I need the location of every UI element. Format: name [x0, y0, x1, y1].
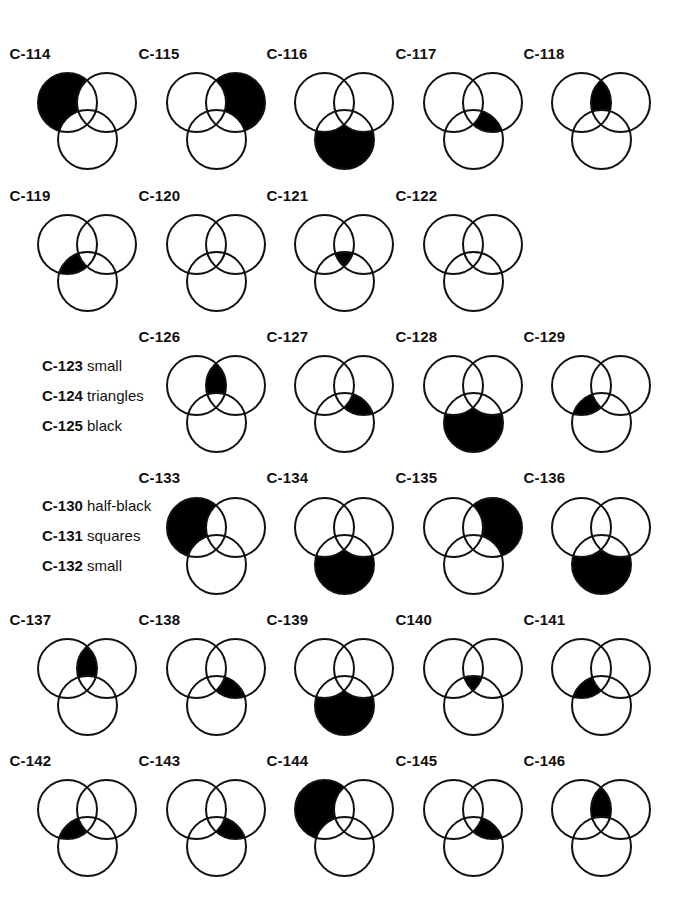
venn-diagram — [34, 211, 140, 315]
diagram-label: C-141 — [524, 611, 566, 628]
venn-diagram — [291, 494, 397, 598]
venn-diagram — [163, 211, 269, 315]
venn-diagram — [291, 776, 397, 880]
diagram-label: C-136 — [524, 469, 566, 486]
diagram-label: C-119 — [10, 187, 51, 204]
venn-item-c-144: C-144 — [267, 752, 396, 892]
venn-item-c-121: C-121 — [267, 187, 396, 327]
circle-a — [167, 639, 226, 698]
side-note: C-124 triangles — [42, 387, 144, 404]
venn-diagram — [163, 494, 269, 598]
diagram-label: C-117 — [396, 45, 437, 62]
side-note: C-125 black — [42, 417, 122, 434]
venn-item-c-138: C-138 — [139, 611, 268, 751]
circle-a — [424, 73, 483, 132]
venn-diagram — [34, 69, 140, 173]
venn-diagram — [34, 776, 140, 880]
diagram-label: C-145 — [396, 752, 438, 769]
venn-diagram — [420, 352, 526, 456]
venn-diagram — [420, 776, 526, 880]
venn-item-c-135: C-135 — [396, 469, 525, 609]
circle-a — [167, 780, 226, 839]
venn-item-c-127: C-127 — [267, 328, 396, 468]
circle-b — [334, 215, 393, 274]
venn-item-c-128: C-128 — [396, 328, 525, 468]
venn-diagram — [163, 776, 269, 880]
diagram-label: C-135 — [396, 469, 438, 486]
diagram-label: C-122 — [396, 187, 438, 204]
side-note: C-131 squares — [42, 527, 140, 544]
circle-a — [424, 639, 483, 698]
side-note: C-132 small — [42, 557, 122, 574]
circle-b — [591, 639, 650, 698]
diagram-label: C-134 — [267, 469, 309, 486]
venn-item-c-133: C-133 — [139, 469, 268, 609]
venn-diagram — [291, 352, 397, 456]
diagram-label: C-138 — [139, 611, 181, 628]
venn-item-c-119: C-119 — [10, 187, 139, 327]
venn-diagram — [548, 635, 654, 739]
diagram-label: C-121 — [267, 187, 309, 204]
diagram-label: C-127 — [267, 328, 309, 345]
side-note: C-123 small — [42, 357, 122, 374]
circle-b — [77, 780, 136, 839]
venn-item-c-120: C-120 — [139, 187, 268, 327]
venn-item-c-146: C-146 — [524, 752, 653, 892]
venn-diagram — [163, 69, 269, 173]
venn-diagram — [420, 69, 526, 173]
diagram-label: C-146 — [524, 752, 566, 769]
venn-diagram — [291, 69, 397, 173]
side-note-code: C-132 — [42, 557, 83, 574]
circle-b — [77, 215, 136, 274]
circle-b — [591, 356, 650, 415]
circle-a — [167, 215, 226, 274]
venn-diagram — [420, 494, 526, 598]
venn-item-c-126: C-126 — [139, 328, 268, 468]
side-note-text: small — [83, 357, 122, 374]
side-note-text: black — [83, 417, 122, 434]
venn-item-c-117: C-117 — [396, 45, 525, 185]
diagram-label: C-126 — [139, 328, 181, 345]
venn-item-c-145: C-145 — [396, 752, 525, 892]
venn-diagram — [548, 69, 654, 173]
diagram-label: C-129 — [524, 328, 566, 345]
diagram-label: C-114 — [10, 45, 51, 62]
side-note-code: C-131 — [42, 527, 83, 544]
venn-item-c-129: C-129 — [524, 328, 653, 468]
diagram-label: C-120 — [139, 187, 181, 204]
circle-c — [187, 252, 246, 311]
side-note-text: triangles — [83, 387, 144, 404]
circle-b — [463, 639, 522, 698]
diagram-label: C-133 — [139, 469, 181, 486]
venn-item-c140: C140 — [396, 611, 525, 751]
diagram-label: C-128 — [396, 328, 438, 345]
side-note-text: squares — [83, 527, 141, 544]
diagram-label: C-137 — [10, 611, 52, 628]
circle-a — [295, 356, 354, 415]
venn-item-c-137: C-137 — [10, 611, 139, 751]
venn-item-c-122: C-122 — [396, 187, 525, 327]
venn-diagram — [548, 494, 654, 598]
circle-a — [295, 215, 354, 274]
venn-item-c-143: C-143 — [139, 752, 268, 892]
venn-diagram — [548, 776, 654, 880]
venn-item-c-114: C-114 — [10, 45, 139, 185]
diagram-label: C-144 — [267, 752, 309, 769]
venn-diagram — [548, 352, 654, 456]
side-note-code: C-124 — [42, 387, 83, 404]
venn-diagram — [420, 211, 526, 315]
side-note: C-130 half-black — [42, 497, 151, 514]
diagram-label: C-139 — [267, 611, 309, 628]
diagram-label: C-118 — [524, 45, 565, 62]
circle-b — [463, 215, 522, 274]
venn-diagram — [420, 635, 526, 739]
diagram-label: C-143 — [139, 752, 181, 769]
circle-b — [206, 215, 265, 274]
venn-item-c-115: C-115 — [139, 45, 268, 185]
venn-diagram — [291, 635, 397, 739]
side-note-code: C-130 — [42, 497, 83, 514]
venn-item-c-118: C-118 — [524, 45, 653, 185]
venn-item-c-116: C-116 — [267, 45, 396, 185]
venn-item-c-139: C-139 — [267, 611, 396, 751]
venn-item-c-136: C-136 — [524, 469, 653, 609]
